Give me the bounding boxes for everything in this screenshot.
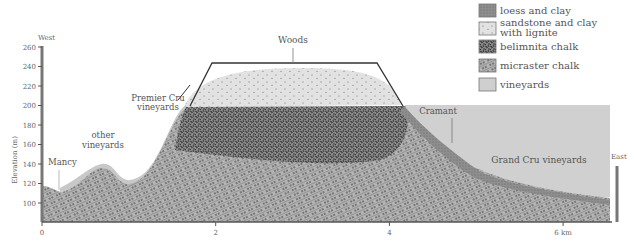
cramant-label: Cramant — [419, 106, 457, 116]
y-tick-label: 220 — [23, 83, 36, 91]
legend-label: vineyards — [499, 79, 549, 90]
other-vineyards-label-line1: other — [91, 130, 115, 140]
y-tick-label: 180 — [23, 122, 36, 130]
east-label: East — [611, 153, 627, 161]
y-tick-label: 260 — [23, 44, 36, 52]
legend-swatch — [479, 78, 496, 91]
x-tick-label: 0 — [40, 229, 44, 237]
y-tick-label: 140 — [23, 161, 36, 169]
y-axis-label: Elevation (m) — [11, 136, 19, 184]
legend-label-line2: with lignite — [500, 27, 558, 38]
cross-section-diagram: Woods Premier Cru vineyards other vineya… — [0, 0, 634, 248]
legend-label: belimnita chalk — [500, 41, 579, 52]
legend-swatch — [479, 59, 496, 72]
west-label: West — [38, 34, 55, 42]
y-ticks: 260240220200180160140120100 — [23, 44, 42, 208]
x-ticks: 0246 km — [40, 222, 572, 237]
y-tick-label: 160 — [23, 141, 36, 149]
legend-swatch — [479, 22, 496, 35]
legend-swatch — [479, 40, 496, 53]
legend-label: loess and clay — [500, 5, 571, 16]
woods-label: Woods — [278, 35, 308, 45]
other-vineyards-label-line2: vineyards — [81, 140, 124, 150]
grand-cru-label: Grand Cru vineyards — [491, 155, 587, 165]
x-tick-label: 2 — [213, 229, 217, 237]
mancy-label: Mancy — [48, 157, 77, 167]
premier-cru-label-line2: vineyards — [136, 102, 179, 112]
x-tick-label: 4 — [387, 229, 392, 237]
y-tick-label: 100 — [23, 200, 36, 208]
x-tick-label: 6 km — [554, 229, 572, 237]
y-tick-label: 120 — [23, 180, 36, 188]
sandstone-layer — [184, 68, 402, 107]
y-tick-label: 200 — [23, 102, 36, 110]
legend: loess and claysandstone and claywith lig… — [479, 4, 597, 91]
legend-label: micraster chalk — [500, 60, 580, 71]
legend-swatch — [479, 4, 496, 17]
y-tick-label: 240 — [23, 63, 36, 71]
